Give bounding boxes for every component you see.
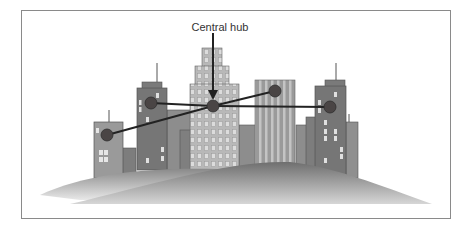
node-left-building — [101, 129, 113, 141]
left-building — [94, 110, 123, 178]
node-right-building — [324, 101, 336, 113]
node-tall-left-building — [145, 97, 157, 109]
link-hub-to-right — [213, 106, 330, 107]
node-central-hub — [207, 100, 219, 112]
city-network-illustration — [0, 0, 474, 234]
central-hub-label: Central hub — [180, 21, 260, 33]
node-striped-building — [269, 85, 281, 97]
tall-left-building — [137, 63, 167, 170]
right-building — [315, 63, 346, 176]
